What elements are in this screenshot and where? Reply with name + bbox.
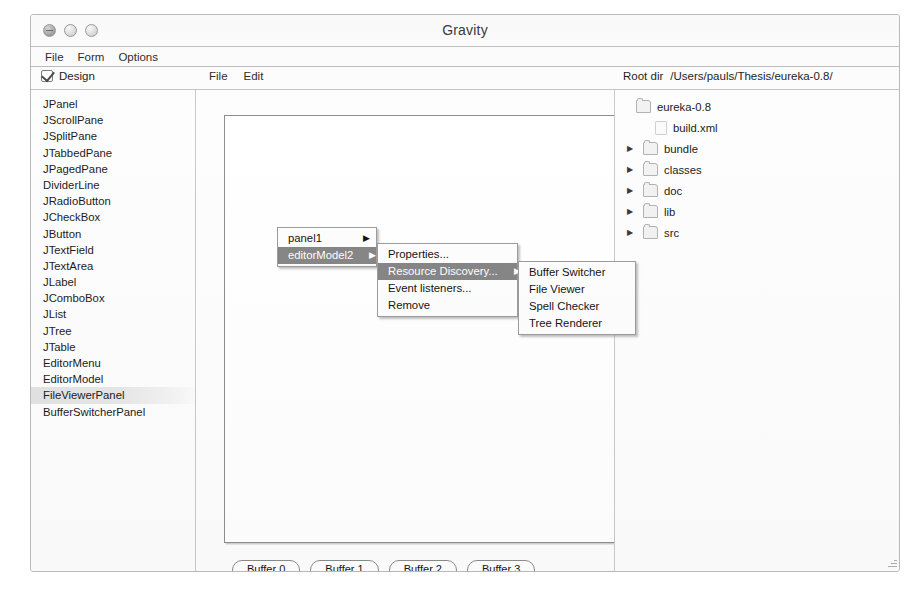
context-item-panel1[interactable]: panel1 ▶ xyxy=(278,230,376,247)
context-item-label: Spell Checker xyxy=(529,298,599,315)
context-item-file-viewer[interactable]: File Viewer xyxy=(519,281,635,298)
tree-row-label: eureka-0.8 xyxy=(657,101,711,113)
tree-row-label: classes xyxy=(664,164,702,176)
submenu-arrow-icon: ▶ xyxy=(369,251,376,260)
palette-item-jtable[interactable]: JTable xyxy=(31,339,195,355)
context-item-label: Event listeners... xyxy=(388,280,472,297)
window-title: Gravity xyxy=(31,22,899,38)
palette-item-editormodel[interactable]: EditorModel xyxy=(31,371,195,387)
disclosure-arrow-icon[interactable]: ▶ xyxy=(623,187,636,195)
tool-strip: Design File Edit Root dir /Users/pauls/T… xyxy=(31,67,899,90)
palette-item-jlist[interactable]: JList xyxy=(31,306,195,322)
buffer-button-0[interactable]: Buffer 0 xyxy=(232,560,300,572)
palette-item-jbutton[interactable]: JButton xyxy=(31,226,195,242)
canvas-menu-file[interactable]: File xyxy=(203,70,234,82)
checkbox-icon[interactable] xyxy=(41,70,53,82)
folder-icon xyxy=(643,163,658,176)
buffer-button-2[interactable]: Buffer 2 xyxy=(389,560,457,572)
context-item-event-listeners[interactable]: Event listeners... xyxy=(378,280,517,297)
context-item-buffer-switcher[interactable]: Buffer Switcher xyxy=(519,264,635,281)
design-toggle-label: Design xyxy=(59,70,95,82)
tree-row-src[interactable]: ▶ src xyxy=(615,222,899,243)
title-bar: Gravity xyxy=(31,15,899,47)
menu-bar: File Form Options xyxy=(31,47,899,67)
grip-line xyxy=(894,560,897,561)
context-item-label: File Viewer xyxy=(529,281,585,298)
file-icon xyxy=(655,121,667,135)
context-item-label: Tree Renderer xyxy=(529,315,602,332)
palette-item-jpagedpane[interactable]: JPagedPane xyxy=(31,161,195,177)
palette-item-bufferswitcherpanel[interactable]: BufferSwitcherPanel xyxy=(31,404,195,420)
palette-item-jcheckbox[interactable]: JCheckBox xyxy=(31,209,195,225)
tree-row-lib[interactable]: ▶ lib xyxy=(615,201,899,222)
component-palette: JPanel JScrollPane JSplitPane JTabbedPan… xyxy=(31,90,196,571)
root-dir-label: Root dir xyxy=(623,70,663,82)
palette-item-dividerline[interactable]: DividerLine xyxy=(31,177,195,193)
context-item-label: panel1 xyxy=(288,230,322,247)
context-menu-components: panel1 ▶ editorModel2 ▶ xyxy=(277,227,377,267)
grip-line xyxy=(888,566,897,567)
palette-item-jcombobox[interactable]: JComboBox xyxy=(31,290,195,306)
context-item-spell-checker[interactable]: Spell Checker xyxy=(519,298,635,315)
root-dir-path[interactable]: /Users/pauls/Thesis/eureka-0.8/ xyxy=(670,70,832,82)
menu-file[interactable]: File xyxy=(38,48,71,66)
buffer-button-3[interactable]: Buffer 3 xyxy=(467,560,535,572)
palette-item-jpanel[interactable]: JPanel xyxy=(31,96,195,112)
palette-item-editormenu[interactable]: EditorMenu xyxy=(31,355,195,371)
disclosure-arrow-icon[interactable]: ▶ xyxy=(623,145,636,153)
canvas-menu-edit[interactable]: Edit xyxy=(238,70,270,82)
folder-icon xyxy=(643,226,658,239)
context-item-label: editorModel2 xyxy=(288,247,353,264)
context-item-label: Remove xyxy=(388,297,430,314)
folder-icon xyxy=(643,142,658,155)
context-item-editormodel2[interactable]: editorModel2 ▶ xyxy=(278,247,376,264)
context-item-resource-discovery[interactable]: Resource Discovery... ▶ xyxy=(378,263,517,280)
buffer-button-1[interactable]: Buffer 1 xyxy=(310,560,378,572)
resize-grip[interactable] xyxy=(886,558,897,569)
menu-form[interactable]: Form xyxy=(71,48,112,66)
check-mark-icon xyxy=(41,68,55,82)
context-item-label: Buffer Switcher xyxy=(529,264,605,281)
application-window: Gravity File Form Options Design File Ed… xyxy=(30,14,900,572)
tree-row-eureka[interactable]: ▶ eureka-0.8 xyxy=(615,96,899,117)
palette-item-jscrollpane[interactable]: JScrollPane xyxy=(31,112,195,128)
tree-row-label: bundle xyxy=(664,143,698,155)
tree-row-label: doc xyxy=(664,185,682,197)
palette-item-jtree[interactable]: JTree xyxy=(31,323,195,339)
palette-item-jlabel[interactable]: JLabel xyxy=(31,274,195,290)
tree-row-label: src xyxy=(664,227,679,239)
tree-row-label: lib xyxy=(664,206,675,218)
palette-item-jradiobutton[interactable]: JRadioButton xyxy=(31,193,195,209)
main-body: JPanel JScrollPane JSplitPane JTabbedPan… xyxy=(31,90,899,571)
tree-row-classes[interactable]: ▶ classes xyxy=(615,159,899,180)
disclosure-arrow-icon[interactable]: ▶ xyxy=(623,103,636,111)
disclosure-arrow-icon[interactable]: ▶ xyxy=(623,208,636,216)
tree-row-label: build.xml xyxy=(673,122,718,134)
palette-item-jtextfield[interactable]: JTextField xyxy=(31,242,195,258)
context-item-label: Properties... xyxy=(388,246,449,263)
tree-row-bundle[interactable]: ▶ bundle xyxy=(615,138,899,159)
tree-row-doc[interactable]: ▶ doc xyxy=(615,180,899,201)
context-item-properties[interactable]: Properties... xyxy=(378,246,517,263)
context-item-label: Resource Discovery... xyxy=(388,263,498,280)
root-dir-bar: Root dir /Users/pauls/Thesis/eureka-0.8/ xyxy=(623,70,833,82)
folder-icon xyxy=(643,184,658,197)
palette-item-jtextarea[interactable]: JTextArea xyxy=(31,258,195,274)
design-toggle[interactable]: Design xyxy=(41,70,95,82)
canvas-menu-bar: File Edit xyxy=(203,70,269,82)
disclosure-arrow-icon[interactable]: ▶ xyxy=(623,166,636,174)
context-menu-actions: Properties... Resource Discovery... ▶ Ev… xyxy=(377,243,518,317)
context-menu-resources: Buffer Switcher File Viewer Spell Checke… xyxy=(518,261,636,335)
menu-options[interactable]: Options xyxy=(111,48,165,66)
context-item-tree-renderer[interactable]: Tree Renderer xyxy=(519,315,635,332)
grip-line xyxy=(891,563,897,564)
disclosure-arrow-icon[interactable]: ▶ xyxy=(623,229,636,237)
palette-item-fileviewerpanel[interactable]: FileViewerPanel xyxy=(31,387,195,403)
context-item-remove[interactable]: Remove xyxy=(378,297,517,314)
buffer-switcher-bar: Buffer 0 Buffer 1 Buffer 2 Buffer 3 xyxy=(224,557,681,572)
file-tree-panel: ▶ eureka-0.8 build.xml ▶ bundle ▶ c xyxy=(614,90,899,571)
palette-item-jsplitpane[interactable]: JSplitPane xyxy=(31,128,195,144)
submenu-arrow-icon: ▶ xyxy=(363,234,370,243)
palette-item-jtabbedpane[interactable]: JTabbedPane xyxy=(31,145,195,161)
tree-row-build-xml[interactable]: build.xml xyxy=(615,117,899,138)
